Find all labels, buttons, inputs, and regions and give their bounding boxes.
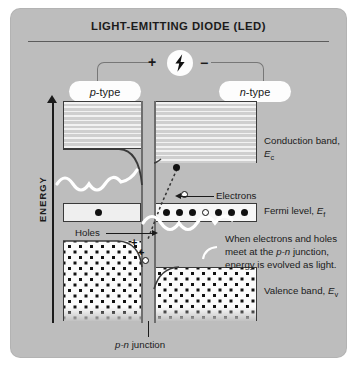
diagram-overlay xyxy=(11,9,346,357)
fermi-electron-5 xyxy=(228,209,235,216)
led-band-diagram: LIGHT-EMITTING DIODE (LED) + − p-type n-… xyxy=(0,0,357,366)
holes-leader-line xyxy=(106,233,154,234)
holes-arrowhead xyxy=(152,230,158,236)
holes-label: Holes xyxy=(75,227,100,240)
conduction-band-text: Conduction band, xyxy=(264,135,340,146)
electron-particle-fermi-p xyxy=(95,209,102,216)
explanation-line-1: When electrons and holes xyxy=(225,233,337,244)
photon-wave-right xyxy=(143,216,232,229)
electrons-leader-line xyxy=(181,196,214,197)
valence-band-text: Valence band, xyxy=(264,285,328,296)
hole-plus-marker-1: + xyxy=(131,237,137,248)
fermi-electron-4 xyxy=(215,209,222,216)
fermi-level-text: Fermi level, xyxy=(264,205,317,216)
pn-junction-rest: junction xyxy=(129,339,165,350)
fermi-electron-2 xyxy=(176,209,183,216)
pn-junction-italic: p-n xyxy=(115,339,129,350)
electron-particle-conduction xyxy=(173,164,180,171)
pn-junction-tick xyxy=(148,321,149,337)
diagram-panel: LIGHT-EMITTING DIODE (LED) + − p-type n-… xyxy=(11,9,346,357)
fermi-electron-6 xyxy=(241,209,248,216)
explanation-line-2c: junction, xyxy=(290,246,329,257)
photon-wave-left xyxy=(57,170,137,190)
fermi-level-label: Fermi level, Ef xyxy=(264,205,357,220)
fermi-electron-3 xyxy=(189,209,196,216)
explanation-pn-italic: p-n xyxy=(276,246,290,257)
explanation-leader-curve xyxy=(203,247,217,259)
conduction-band-subscript: c xyxy=(270,153,274,162)
valence-band-label: Valence band, Ev xyxy=(264,285,357,300)
pn-junction-label: p-n junction xyxy=(115,339,165,352)
hole-open-circle xyxy=(142,257,149,264)
conduction-edge-n-curve xyxy=(154,159,161,163)
fermi-level-subscript: f xyxy=(323,210,325,219)
explanation-text: When electrons and holes meet at the p-n… xyxy=(225,233,357,272)
explanation-line-2a: meet at the xyxy=(225,246,276,257)
explanation-line-3: energy is evolved as light. xyxy=(225,259,336,270)
valence-band-subscript: v xyxy=(334,290,338,299)
valence-edge-n-curve xyxy=(154,267,179,289)
conduction-band-label: Conduction band, Ec xyxy=(264,135,357,163)
fermi-electron-1 xyxy=(163,209,170,216)
fermi-hole-marker xyxy=(202,209,209,216)
electrons-label: Electrons xyxy=(216,190,256,203)
